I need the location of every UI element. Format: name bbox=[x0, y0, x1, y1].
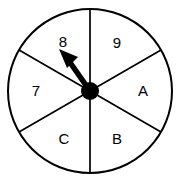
sector-label-c: C bbox=[59, 130, 70, 147]
sector-label-b: B bbox=[112, 130, 122, 147]
spinner-hub bbox=[81, 82, 99, 100]
spinner-wheel-graphic: 8 9 A B C 7 bbox=[0, 0, 183, 182]
sector-label-a: A bbox=[138, 82, 148, 99]
sector-label-8: 8 bbox=[59, 33, 67, 50]
sector-label-7: 7 bbox=[32, 82, 40, 99]
sector-label-9: 9 bbox=[113, 34, 121, 51]
spinner-figure: 8 9 A B C 7 bbox=[0, 0, 183, 182]
